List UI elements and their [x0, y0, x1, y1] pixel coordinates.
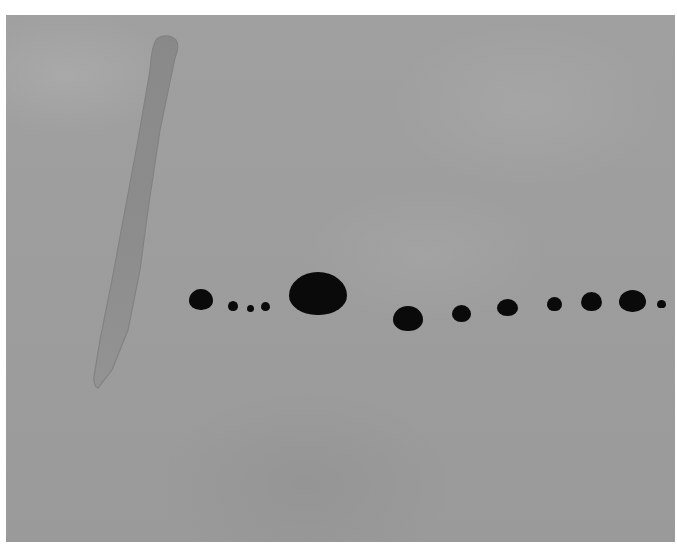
black-dot [289, 272, 347, 315]
black-dot [581, 292, 602, 311]
black-dot [189, 289, 213, 310]
black-dot [228, 301, 238, 311]
black-dot [657, 300, 666, 308]
black-dot [547, 297, 562, 311]
black-dot [393, 306, 423, 331]
black-dot [497, 299, 518, 316]
black-dot [452, 305, 471, 322]
black-dot [261, 302, 270, 311]
black-dot [247, 305, 254, 312]
black-dot [619, 290, 646, 312]
diagonal-brushstroke [0, 0, 677, 545]
